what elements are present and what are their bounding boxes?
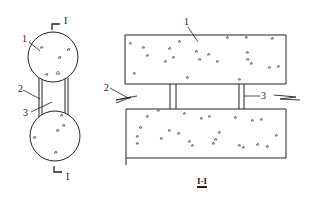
- connector-left: [170, 84, 176, 109]
- plan-label-strut: 3: [23, 108, 28, 118]
- section-label-side-member: 2: [104, 83, 109, 93]
- leader-side-2: [110, 88, 130, 99]
- section-title: I-I: [197, 177, 207, 186]
- leader-2: [23, 90, 40, 99]
- section-mark-top-label: I: [64, 16, 67, 26]
- section-view: [110, 27, 300, 165]
- pile-top: [28, 32, 78, 82]
- section-mark-bottom: [54, 166, 62, 172]
- break-line-right: [274, 95, 300, 100]
- plan-view: [23, 24, 80, 172]
- section-mark-top: [52, 24, 60, 30]
- connector-right: [239, 84, 244, 109]
- plan-label-pile: 1: [22, 34, 27, 44]
- pile-bottom: [30, 111, 80, 161]
- section-label-connector: 3: [261, 91, 266, 101]
- section-label-slab: 1: [184, 17, 189, 27]
- section-mark-bottom-label: I: [66, 172, 69, 182]
- aggregate-marks-slab: [129, 36, 280, 148]
- structural-diagram: [0, 0, 314, 200]
- plan-label-side-member: 2: [18, 84, 23, 94]
